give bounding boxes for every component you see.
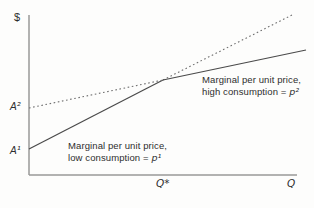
annotation-high-consumption: Marginal per unit price, high consumptio… (202, 74, 301, 98)
high-tariff-line-dotted-ext (29, 80, 163, 108)
annotation-low-line2: low consumption = p¹ (68, 152, 167, 164)
intercept-a2-label: A² (10, 101, 21, 112)
p2-variable: p² (289, 86, 299, 97)
q-star-label: Q* (156, 177, 170, 189)
p1-variable: p¹ (151, 152, 161, 163)
y-axis-label: $ (14, 11, 20, 23)
intercept-a1-label: A¹ (10, 145, 21, 156)
x-axis-label: Q (287, 177, 295, 189)
low-tariff-line-dotted-ext (163, 15, 292, 80)
annotation-low-consumption: Marginal per unit price, low consumption… (68, 140, 167, 164)
annotation-high-line1: Marginal per unit price, (202, 74, 301, 86)
two-part-tariff-figure: $ A² A¹ Q* Q Marginal per unit price, hi… (0, 0, 314, 208)
annotation-high-line2: high consumption = p² (202, 86, 301, 98)
annotation-low-line1: Marginal per unit price, (68, 140, 167, 152)
low-tariff-line-solid (29, 80, 163, 149)
